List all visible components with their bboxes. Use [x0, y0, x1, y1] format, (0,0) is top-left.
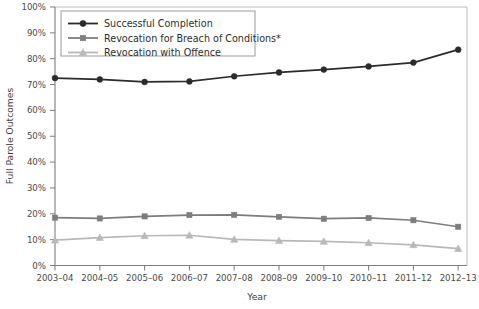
x-tick-label: 2009–10 — [305, 273, 342, 283]
circle-marker — [80, 20, 86, 26]
x-tick-label: 2010–11 — [350, 273, 387, 283]
circle-marker — [52, 75, 58, 81]
x-axis-tick-labels: 2003–04 2004–05 2005–06 2006–07 2007–08 … — [36, 273, 476, 283]
y-tick-label: 80% — [27, 54, 46, 64]
square-marker — [52, 215, 57, 220]
circle-marker — [366, 64, 372, 70]
y-tick-label: 90% — [27, 28, 46, 38]
circle-marker — [142, 79, 148, 85]
square-marker — [366, 215, 371, 220]
x-tick-label: 2003–04 — [36, 273, 73, 283]
series-2 — [51, 232, 461, 252]
y-tick-label: 60% — [27, 105, 46, 115]
legend: Successful CompletionRevocation for Brea… — [61, 11, 281, 58]
x-tick-label: 2007–08 — [216, 273, 253, 283]
square-marker — [97, 216, 102, 221]
x-tick-label: 2004–05 — [81, 273, 118, 283]
legend-label: Revocation for Breach of Conditions* — [104, 33, 281, 44]
circle-marker — [276, 70, 282, 76]
square-marker — [456, 224, 461, 229]
series-line — [55, 215, 458, 227]
data-series-layer — [51, 47, 461, 252]
y-axis-ticks — [50, 7, 55, 266]
y-tick-label: 40% — [27, 157, 46, 167]
circle-marker — [411, 60, 417, 66]
legend-label: Successful Completion — [104, 18, 213, 29]
y-tick-label: 50% — [27, 131, 46, 141]
x-axis-title: Year — [246, 291, 267, 302]
series-line — [55, 235, 458, 248]
y-tick-label: 10% — [27, 235, 46, 245]
square-marker — [80, 35, 85, 40]
circle-marker — [231, 73, 237, 79]
line-chart: 100% 90% 80% 70% 60% 50% 40% 30% 20% 10%… — [0, 0, 479, 309]
y-tick-label: 30% — [27, 183, 46, 193]
y-tick-label: 20% — [27, 209, 46, 219]
legend-label: Revocation with Offence — [104, 47, 221, 58]
x-axis-ticks — [55, 266, 458, 271]
circle-marker — [187, 79, 193, 85]
y-axis-tick-labels: 100% 90% 80% 70% 60% 50% 40% 30% 20% 10%… — [21, 2, 46, 271]
y-tick-label: 0% — [32, 261, 46, 271]
x-tick-label: 2012–13 — [440, 273, 477, 283]
y-tick-label: 100% — [21, 2, 46, 12]
chart-canvas: 100% 90% 80% 70% 60% 50% 40% 30% 20% 10%… — [0, 0, 479, 309]
square-marker — [411, 218, 416, 223]
square-marker — [187, 212, 192, 217]
x-tick-label: 2006–07 — [171, 273, 208, 283]
y-tick-label: 70% — [27, 80, 46, 90]
circle-marker — [455, 47, 461, 53]
circle-marker — [321, 67, 327, 73]
x-tick-label: 2008–09 — [260, 273, 297, 283]
x-tick-label: 2011–12 — [395, 273, 432, 283]
square-marker — [232, 212, 237, 217]
square-marker — [321, 216, 326, 221]
circle-marker — [97, 76, 103, 82]
square-marker — [276, 214, 281, 219]
x-tick-label: 2005–06 — [126, 273, 163, 283]
square-marker — [142, 214, 147, 219]
series-1 — [52, 212, 460, 229]
y-axis-title: Full Parole Outcomes — [4, 88, 15, 185]
